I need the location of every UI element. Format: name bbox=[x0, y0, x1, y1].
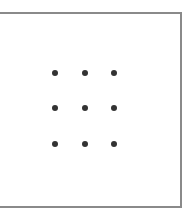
grid-dot[interactable] bbox=[52, 70, 58, 76]
grid-dot[interactable] bbox=[111, 105, 117, 111]
grid-dot[interactable] bbox=[82, 70, 88, 76]
grid-dot[interactable] bbox=[82, 141, 88, 147]
grid-dot[interactable] bbox=[82, 105, 88, 111]
grid-dot[interactable] bbox=[111, 70, 117, 76]
grid-dot[interactable] bbox=[52, 105, 58, 111]
grid-dot[interactable] bbox=[52, 141, 58, 147]
bordered-panel bbox=[0, 12, 182, 208]
grid-dot[interactable] bbox=[111, 141, 117, 147]
